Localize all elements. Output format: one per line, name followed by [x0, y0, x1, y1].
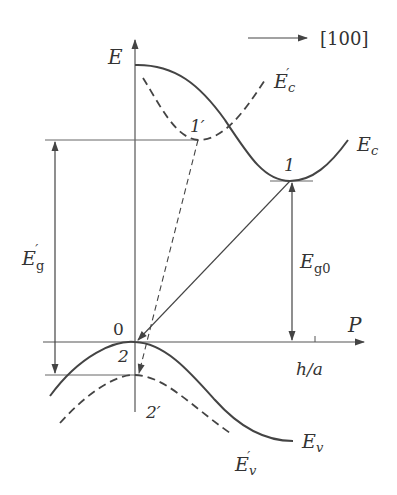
eg-prime-label: Eg′	[21, 242, 44, 273]
point-2-label: 2	[117, 346, 129, 366]
momentum-axis-label: P	[347, 313, 362, 337]
energy-axis-label: E	[107, 45, 123, 69]
conduction-band-label: Ec	[356, 133, 379, 158]
direct-transition-arrow	[139, 140, 198, 373]
valence-band-alt-curve	[60, 375, 230, 433]
indirect-transition-arrow	[138, 181, 290, 340]
valence-band-curve	[50, 342, 293, 441]
point-1-label: 1	[284, 155, 295, 175]
conduction-band-curve	[135, 65, 348, 181]
conduction-band-alt-label: Ec′	[273, 66, 296, 95]
valence-band-label: Ev	[301, 430, 324, 455]
eg0-label: Eg0	[299, 250, 330, 276]
direction-label: [100]	[320, 28, 368, 49]
point-1prime-label: 1′	[190, 116, 205, 136]
valence-band-alt-label: Ev′	[234, 449, 257, 478]
h-over-a-label: h/a	[296, 359, 323, 379]
origin-label: 0	[113, 319, 124, 339]
point-2prime-label: 2′	[145, 402, 161, 422]
band-diagram: E P h/a 0 [100] Ec′ Ec Ev Ev′ Eg′ Eg0 1 …	[0, 0, 397, 495]
